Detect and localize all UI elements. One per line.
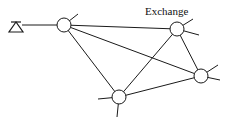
edge-A-B: [64, 25, 177, 29]
exchange-node-B: [170, 22, 184, 36]
exchange-node-D: [112, 90, 126, 104]
subscriber-terminal-icon: [9, 22, 23, 32]
edge-B-D: [119, 29, 177, 97]
edge-A-D: [64, 25, 119, 97]
edge-B-C: [177, 29, 201, 76]
network-diagram: [0, 0, 228, 123]
stub-lines: [64, 14, 220, 117]
exchange-node-C: [194, 69, 208, 83]
exchange-node-A: [57, 18, 71, 32]
exchange-label: Exchange: [145, 5, 188, 17]
edge-D-C: [119, 76, 201, 97]
triangle-icon: [9, 22, 23, 32]
